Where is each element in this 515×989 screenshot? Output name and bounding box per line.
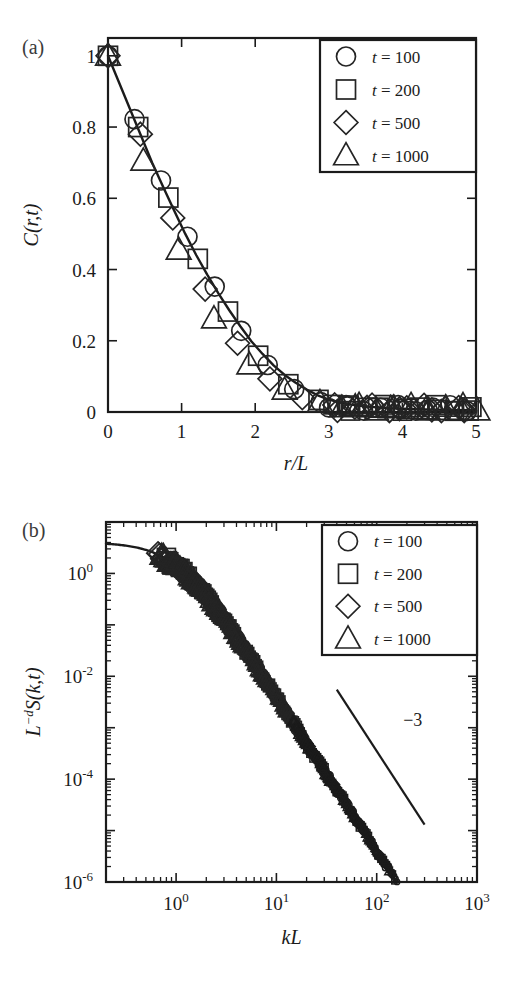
figure-root: (a)012345r/L00.20.40.60.81C(r,t)t = 100t… xyxy=(0,0,515,989)
x-tick-label: 103 xyxy=(464,890,490,914)
marker-triangle xyxy=(202,306,227,328)
panel-a: (a)012345r/L00.20.40.60.81C(r,t)t = 100t… xyxy=(0,0,515,495)
x-tick-label: 101 xyxy=(264,890,290,914)
y-tick-label: 10-6 xyxy=(63,869,93,893)
x-tick-label: 2 xyxy=(250,421,260,442)
x-tick-label: 3 xyxy=(324,421,334,442)
marker-circle xyxy=(232,321,251,340)
y-tick-label: 0.6 xyxy=(72,188,96,209)
y-tick-label: 0.4 xyxy=(72,260,96,281)
slope-guide-label: −3 xyxy=(403,710,422,730)
panel-b-canvas: (b)100101102103kL10-610-410-2100L−dS(k,t… xyxy=(0,495,515,989)
x-tick-label: 102 xyxy=(364,890,390,914)
x-axis-title: r/L xyxy=(284,452,308,474)
legend-entry-label: t = 500 xyxy=(374,597,422,616)
legend-entry-label: t = 1000 xyxy=(374,630,431,649)
y-tick-label: 0.8 xyxy=(72,117,96,138)
panel-b: (b)100101102103kL10-610-410-2100L−dS(k,t… xyxy=(0,495,515,989)
legend-entry-label: t = 100 xyxy=(372,48,420,67)
y-tick-label: 0 xyxy=(87,402,97,423)
legend-entry-label: t = 500 xyxy=(372,114,420,133)
x-tick-label: 0 xyxy=(103,421,113,442)
y-tick-label: 100 xyxy=(68,560,94,584)
legend-entry-label: t = 1000 xyxy=(372,147,429,166)
panel-a-canvas: (a)012345r/L00.20.40.60.81C(r,t)t = 100t… xyxy=(0,0,515,495)
x-tick-label: 4 xyxy=(398,421,408,442)
y-tick-label: 10-4 xyxy=(63,766,93,790)
legend-entry-label: t = 200 xyxy=(374,565,422,584)
legend-entry-label: t = 200 xyxy=(372,81,420,100)
panel-label-b: (b) xyxy=(22,519,45,542)
x-tick-label: 5 xyxy=(471,421,481,442)
x-tick-label: 100 xyxy=(163,890,189,914)
legend: t = 100t = 200t = 500t = 1000 xyxy=(320,40,476,172)
x-axis-title: kL xyxy=(282,926,302,948)
y-tick-label: 0.2 xyxy=(72,331,96,352)
y-tick-label: 1 xyxy=(87,46,97,67)
y-axis-title: L−dS(k,t) xyxy=(21,667,45,738)
legend-entry-label: t = 100 xyxy=(374,532,422,551)
x-tick-label: 1 xyxy=(177,421,187,442)
y-axis-title: C(r,t) xyxy=(20,203,43,246)
panel-label-a: (a) xyxy=(22,36,44,59)
legend: t = 100t = 200t = 500t = 1000 xyxy=(322,525,477,655)
y-tick-label: 10-2 xyxy=(63,663,93,687)
